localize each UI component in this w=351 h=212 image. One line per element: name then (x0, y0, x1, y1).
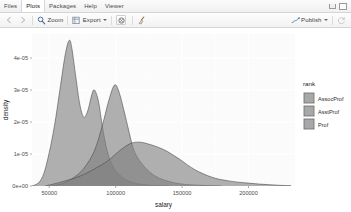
toolbar-separator-3 (111, 16, 112, 25)
publish-button[interactable]: Publish (289, 14, 330, 26)
legend-item: Prof (303, 118, 329, 130)
publish-label: Publish (301, 15, 321, 25)
x-axis-title: salary (155, 201, 173, 209)
publish-icon (291, 16, 300, 25)
legend-item-label: AssocProf (318, 96, 344, 102)
maximize-button[interactable] (339, 3, 347, 10)
tab-packages[interactable]: Packages (45, 0, 80, 12)
plot-canvas: 0e+001e-052e-053e-054e-05500001000001500… (0, 28, 351, 212)
tab-files[interactable]: Files (0, 0, 21, 12)
x-tick-label: 200000 (239, 190, 258, 196)
toolbar-separator-2 (67, 16, 68, 25)
legend-item: AsstProf (303, 105, 340, 117)
arrow-left-icon (5, 16, 13, 24)
legend-title: rank (303, 80, 316, 87)
tab-help[interactable]: Help (80, 0, 101, 12)
x-tick-label: 50000 (41, 190, 57, 196)
y-tick-label: 1e-05 (14, 151, 28, 157)
refresh-icon (337, 16, 346, 25)
zoom-button[interactable]: Zoom (35, 14, 65, 26)
toolbar-separator-5 (332, 16, 333, 25)
legend-item-label: AsstProf (318, 109, 340, 115)
export-button[interactable]: Export (70, 14, 109, 26)
magnifier-icon (37, 16, 46, 25)
minimize-button[interactable] (329, 4, 336, 9)
ggplot-density-plot: 0e+001e-052e-053e-054e-05500001000001500… (0, 28, 351, 212)
back-button[interactable] (3, 14, 17, 26)
legend-key-swatch (304, 106, 314, 116)
legend-item-label: Prof (318, 122, 329, 128)
chevron-down-icon[interactable] (103, 19, 107, 21)
forward-button[interactable] (17, 14, 31, 26)
window-controls (329, 3, 351, 10)
remove-plot-icon (116, 15, 126, 25)
y-tick-label: 2e-05 (14, 119, 28, 125)
legend-key-swatch (304, 93, 314, 103)
y-tick-label: 4e-05 (14, 55, 28, 61)
x-tick-label: 150000 (173, 190, 192, 196)
y-axis-title: density (2, 99, 10, 120)
toolbar-separator-4 (132, 16, 133, 25)
broom-icon (137, 16, 146, 25)
clear-all-plots-button[interactable] (135, 14, 150, 26)
publish-chevron-down-icon[interactable] (324, 19, 328, 21)
legend-item: AssocProf (303, 92, 344, 104)
refresh-button[interactable] (335, 14, 348, 26)
tab-plots[interactable]: Plots (21, 0, 45, 12)
arrow-right-icon (19, 16, 27, 24)
export-label: Export (83, 15, 101, 25)
y-tick-label: 0e+00 (12, 183, 28, 189)
tab-viewer[interactable]: Viewer (101, 0, 128, 12)
legend-key-swatch (304, 119, 314, 129)
zoom-label: Zoom (48, 15, 64, 25)
pane-tabstrip: Files Plots Packages Help Viewer (0, 0, 351, 13)
export-icon (72, 16, 81, 25)
legend: rankAssocProfAsstProfProf (303, 80, 344, 130)
remove-plot-button[interactable] (114, 14, 130, 26)
x-tick-label: 100000 (106, 190, 125, 196)
plots-toolbar: Zoom Export (0, 13, 351, 28)
rstudio-plots-pane: Files Plots Packages Help Viewer (0, 0, 351, 212)
toolbar-separator-1 (32, 16, 33, 25)
y-tick-label: 3e-05 (14, 87, 28, 93)
